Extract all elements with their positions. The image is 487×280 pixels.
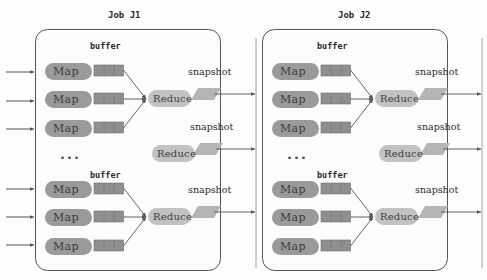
- reduce-node: [148, 208, 191, 225]
- map-node: [272, 181, 319, 198]
- map-node: [272, 91, 319, 108]
- map-node: [272, 63, 319, 80]
- map-node: [272, 209, 319, 226]
- buffer-cells: [94, 65, 124, 133]
- diagram-canvas: Job J1 Job J2 buffer Map Map Map Reduce …: [0, 0, 487, 280]
- map-node: [272, 238, 319, 255]
- reduce-node: [375, 208, 418, 225]
- map-node: [45, 63, 92, 80]
- map-node: [45, 120, 92, 137]
- map-node: [272, 120, 319, 137]
- input-arrows: [6, 72, 34, 245]
- map-node: [45, 91, 92, 108]
- map-node: [45, 181, 92, 198]
- reduce-node: [375, 90, 418, 107]
- buffer-cells: [321, 65, 351, 133]
- diagram-vector-layer: [0, 0, 487, 280]
- reduce-node: [152, 145, 195, 162]
- reduce-node: [148, 90, 191, 107]
- map-node: [45, 238, 92, 255]
- reduce-node: [379, 145, 422, 162]
- buffer-cells: [94, 183, 124, 251]
- map-node: [45, 209, 92, 226]
- buffer-cells: [321, 183, 351, 251]
